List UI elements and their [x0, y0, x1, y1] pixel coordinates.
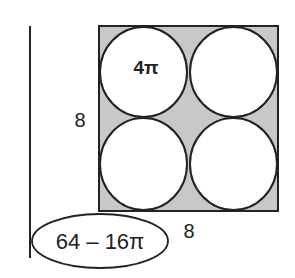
circle-top-right — [190, 27, 277, 117]
answer-text: 64 – 16π — [56, 229, 145, 254]
diagram-canvas: 4π 8 8 64 – 16π — [0, 0, 295, 278]
side-label-left: 8 — [74, 109, 85, 131]
circle-area-label: 4π — [133, 57, 159, 78]
side-label-bottom: 8 — [183, 220, 194, 242]
circle-bottom-left — [100, 118, 187, 210]
circle-bottom-right — [190, 118, 277, 210]
